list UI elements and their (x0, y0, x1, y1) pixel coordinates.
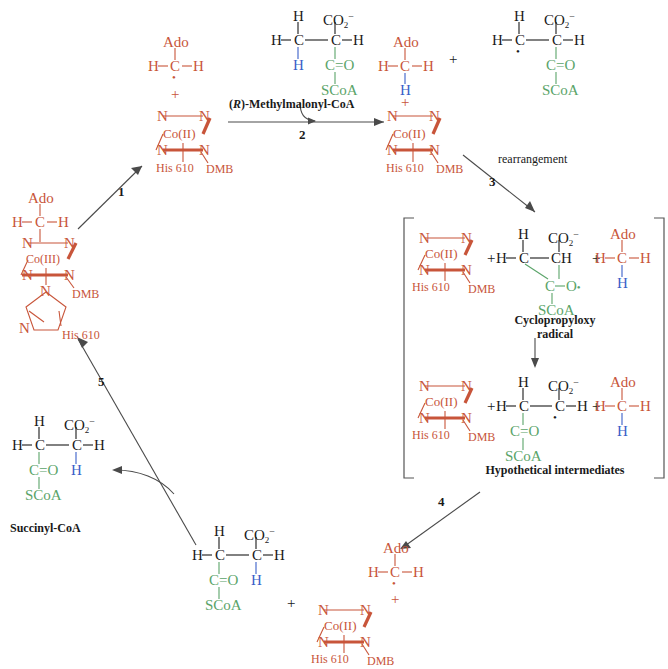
h-atom: H (640, 251, 651, 266)
compound-name-methylmalonyl-coa: (R)-Methylmalonyl-CoA (229, 97, 354, 112)
step-number-3: 3 (489, 174, 496, 190)
c-atom: C (252, 548, 262, 563)
c-atom: C (35, 215, 45, 230)
n-atom: N (360, 635, 371, 650)
n-atom: N (22, 268, 33, 283)
his610-label: His 610 (311, 652, 349, 667)
radical-dot-icon: • (392, 576, 396, 591)
n-atom: N (360, 603, 371, 618)
c-atom: C (617, 399, 627, 414)
ado-label-left: Ado (28, 191, 54, 206)
n-atom: N (199, 143, 210, 158)
h-atom: H (368, 565, 379, 580)
his610-label: His 610 (412, 428, 450, 443)
n-atom: N (318, 635, 329, 650)
h-atom: H (496, 251, 507, 266)
h-atom: H (274, 548, 285, 563)
plus-sign: + (487, 399, 495, 414)
compound-name-cyclopropyloxy: Cyclopropyloxyradical (490, 313, 620, 341)
dmb-label: DMB (468, 430, 495, 445)
h-atom: H (271, 33, 282, 48)
h-atom: H (353, 33, 364, 48)
carboxylate-label: CO2− (548, 227, 579, 251)
c-atom: C (35, 438, 45, 453)
scoa-label: SCoA (25, 488, 62, 503)
cobalt-label: Co(II) (393, 126, 426, 141)
n-atom: N (419, 263, 430, 278)
c-atom: C (552, 33, 562, 48)
radical-dot-icon: • (516, 44, 520, 59)
his610-label: His 610 (156, 161, 194, 176)
step-number-2: 2 (299, 127, 306, 143)
carboxylate-label: CO2− (244, 524, 275, 548)
radical-dot-icon: • (553, 410, 557, 425)
n-atom: N (318, 603, 329, 618)
dmb-label: DMB (206, 162, 233, 177)
h-atom: H (12, 215, 23, 230)
h-atom: H (574, 33, 585, 48)
h-atom: H (595, 399, 606, 414)
carboxylate-label: CO2− (64, 414, 95, 438)
n-atom: N (199, 109, 210, 124)
carboxylate-label: CO2− (323, 9, 354, 33)
plus-sign: + (401, 95, 409, 110)
cobalt-label: Co(II) (324, 618, 357, 633)
n-atom: N (419, 379, 430, 394)
plus-sign: + (287, 596, 295, 611)
mechanism-diagram: Ado H C H • + N N N N Co(II) His 610 DMB… (0, 0, 668, 669)
h-atom: H (12, 438, 23, 453)
h-atom: H (378, 59, 389, 74)
plus-sign: + (449, 52, 457, 67)
cobalt-label: Co(II) (425, 246, 458, 261)
h-atom: H (577, 399, 588, 414)
migrating-h-atom: H (251, 573, 262, 588)
n-atom: N (461, 411, 472, 426)
carbonyl-group: C=O (209, 573, 238, 588)
h-atom: H (423, 59, 434, 74)
n-atom: N (461, 231, 472, 246)
n-atom: N (64, 236, 75, 251)
n-atom: N (419, 231, 430, 246)
compound-name-succinyl-coa: Succinyl-CoA (10, 521, 130, 535)
his610-label: His 610 (412, 280, 450, 295)
h-atom: H (496, 399, 507, 414)
scoa-label: SCoA (542, 83, 579, 98)
h-atom: H (192, 548, 203, 563)
step-caption-rearrangement: rearrangement (498, 152, 567, 167)
c-atom: C (331, 33, 341, 48)
cobalt-label: Co(III) (26, 252, 60, 267)
c-atom: C (400, 59, 410, 74)
h-atom: H (413, 565, 424, 580)
ch-group: CH (551, 251, 572, 266)
scoa-label: SCoA (205, 598, 242, 613)
n-atom: N (461, 379, 472, 394)
h-atom: H (518, 227, 529, 242)
c-atom: C (617, 251, 627, 266)
h-atom: H (595, 251, 606, 266)
scoa-label: SCoA (321, 83, 358, 98)
migrating-h-atom: H (617, 424, 628, 439)
h-atom: H (492, 33, 503, 48)
compound-name-hypothetical: Hypothetical intermediates (450, 463, 660, 477)
n-atom: N (461, 263, 472, 278)
c-atom: C (215, 548, 225, 563)
plus-sign: + (487, 251, 495, 266)
migrating-h-atom: H (617, 276, 628, 291)
cobalt-label: Co(II) (425, 394, 458, 409)
ado-label-top-right: Ado (393, 35, 419, 50)
c-atom: C (519, 399, 529, 414)
oxygen-radical: O• (566, 279, 581, 295)
step-number-5: 5 (98, 374, 105, 390)
n-atom: N (429, 109, 440, 124)
h-atom: H (58, 215, 69, 230)
ado-label-top-left: Ado (163, 35, 189, 50)
n-atom: N (22, 236, 33, 251)
dmb-label: DMB (468, 282, 495, 297)
dmb-label: DMB (436, 162, 463, 177)
dmb-label: DMB (72, 287, 99, 302)
n-atom: N (64, 268, 75, 283)
scoa-label: SCoA (505, 449, 542, 464)
ring-carbon: C (545, 279, 555, 294)
carboxylate-label: CO2− (544, 9, 575, 33)
n-atom: N (429, 143, 440, 158)
